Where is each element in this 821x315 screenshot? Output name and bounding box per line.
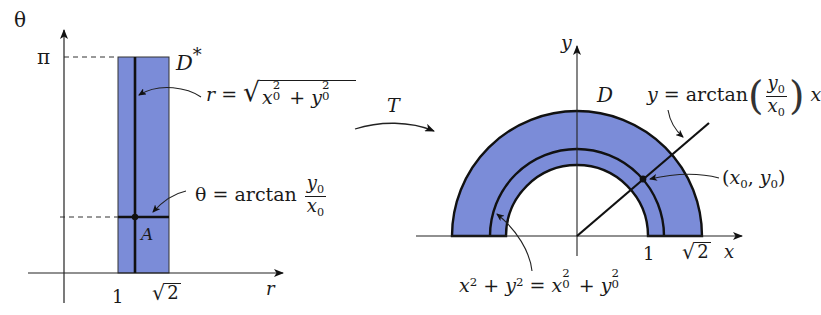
region-d-label: D: [597, 85, 613, 105]
theta-equation: θ = arctan y0 x0: [195, 174, 328, 218]
r-equation: r = √ x20 + y20: [206, 80, 356, 107]
denominator-subscript: 0: [317, 206, 324, 219]
y-axis-label: y: [561, 33, 572, 52]
r-symbol: r: [206, 83, 215, 105]
denominator-subscript: 0: [778, 106, 785, 119]
y0-subscript: 0: [322, 91, 330, 103]
x-symbol: x: [811, 83, 821, 105]
plus-sign: +: [579, 274, 595, 296]
sqrt2-radicand: 2: [165, 283, 180, 304]
comma: ,: [748, 166, 754, 188]
circle-equation: x2 + y2 = x20 + y20: [459, 273, 622, 295]
tick-sqrt2-label-left: √2: [152, 283, 181, 304]
equals-sign: =: [664, 83, 680, 105]
y0-subscript: 0: [611, 279, 619, 291]
equals-sign: =: [530, 274, 546, 296]
point-x0-y0-label: (x0, y0): [722, 168, 785, 191]
plus-sign: +: [483, 274, 499, 296]
tick-sqrt2-label-right: √2: [682, 242, 711, 263]
numerator-subscript: 0: [778, 83, 785, 96]
x-subscript: 0: [740, 177, 748, 191]
x0-symbol: x: [262, 86, 273, 108]
transform-arrow: [355, 123, 434, 131]
numerator-y: y: [307, 172, 317, 193]
line-equation: y = arctan( y0 x0 ) x: [647, 74, 821, 118]
numerator-subscript: 0: [317, 183, 324, 196]
y0-over-x0-fraction: y0 x0: [766, 74, 787, 118]
region-d-star-superscript: *: [193, 44, 202, 65]
transform-label: T: [387, 96, 400, 115]
x-axis-label: x: [724, 243, 734, 261]
x0-subscript: 0: [273, 91, 281, 103]
x0-symbol: x: [551, 274, 562, 296]
y-symbol: y: [760, 166, 771, 188]
denominator-x: x: [768, 95, 778, 116]
y-exponent: 2: [516, 275, 524, 289]
plus-sign: +: [289, 86, 305, 108]
region-d-star-label: D*: [176, 46, 202, 74]
numerator-y: y: [768, 72, 778, 93]
equals-sign: =: [213, 183, 229, 205]
y-subscript: 0: [770, 177, 778, 191]
y0-symbol: y: [311, 86, 322, 108]
theta-axis-label: θ: [14, 10, 26, 30]
denominator-x: x: [307, 195, 317, 216]
x-exponent: 2: [470, 275, 478, 289]
right-paren: ): [789, 72, 805, 118]
point-a-label: A: [141, 226, 153, 243]
y-symbol: y: [505, 274, 516, 296]
left-panel: [28, 30, 283, 303]
pi-tick-label: π: [37, 47, 50, 67]
y0-symbol: y: [601, 274, 612, 296]
x0-subscript: 0: [562, 279, 570, 291]
tick-1-label-left: 1: [112, 288, 123, 306]
arctan-function: arctan: [686, 83, 748, 105]
r-axis-label: r: [266, 280, 275, 298]
tick-1-label-right: 1: [643, 245, 654, 263]
arctan-function: arctan: [234, 183, 296, 205]
sqrt2-radicand: 2: [695, 242, 710, 263]
region-d-star-letter: D: [176, 51, 193, 75]
x-symbol: x: [729, 166, 740, 188]
y0-over-x0-fraction: y0 x0: [305, 174, 326, 218]
theta-symbol: θ: [195, 183, 206, 205]
x-symbol: x: [459, 274, 470, 296]
point-x0-y0: [640, 176, 647, 183]
equals-sign: =: [221, 83, 237, 105]
y-symbol: y: [647, 83, 658, 105]
close-paren: ): [778, 166, 785, 188]
point-a: [132, 214, 138, 220]
left-paren: (: [748, 72, 764, 118]
